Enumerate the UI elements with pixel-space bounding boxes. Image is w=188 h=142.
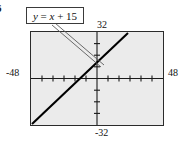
equation-equals: = [38, 10, 50, 22]
y-max-label: 32 [97, 19, 107, 30]
equation-constant: 15 [66, 10, 77, 22]
figure-screenshot: 6 y = x + 15 [0, 0, 188, 142]
equation-callout-box: y = x + 15 [26, 7, 84, 24]
x-min-label: -48 [6, 67, 19, 78]
plot-viewing-window [30, 31, 164, 126]
problem-number: 6 [0, 2, 2, 14]
equation-plus: + [54, 10, 66, 22]
x-max-label: 48 [168, 67, 178, 78]
y-min-label: -32 [95, 127, 108, 138]
plot-canvas [31, 32, 163, 125]
equation-text: y = x + 15 [33, 10, 77, 22]
